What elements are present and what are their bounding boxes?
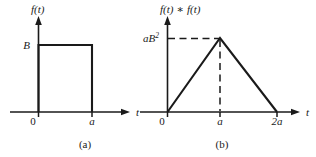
panel-b-caption: (b) <box>216 138 229 151</box>
panel-a-x-axis-arrowhead <box>121 109 130 116</box>
panel-b-x-tick-label-2a: 2a <box>272 115 284 127</box>
panel-b-y-axis-label-left: f(t) <box>160 3 174 16</box>
panel-b-y-axis-label-operator: ∗ <box>176 3 183 15</box>
panel-b-x-axis-label: t <box>306 106 310 118</box>
panel-b-y-axis-label: f(t)∗f(t) <box>160 3 201 16</box>
panel-b: f(t)∗f(t) aB2 0 a 2a t (b) <box>140 3 310 151</box>
panel-a-x-axis-label: t <box>136 106 140 118</box>
panel-b-x-axis-arrowhead <box>291 109 300 116</box>
panel-a-pulse-curve <box>39 45 93 112</box>
panel-a: f(t) B 0 a t (a) <box>10 3 140 151</box>
panel-b-x-tick-label-a: a <box>217 115 223 127</box>
panel-a-y-tick-label-B: B <box>23 39 30 51</box>
figure-container: f(t) B 0 a t (a) <box>0 0 316 157</box>
panel-a-y-axis-arrowhead <box>35 16 42 25</box>
panel-b-y-tick-label-exponent: 2 <box>155 31 159 40</box>
panel-b-y-axis-label-right: f(t) <box>187 3 201 16</box>
panel-b-origin-label: 0 <box>159 115 165 127</box>
panel-b-y-axis-arrowhead <box>164 16 171 25</box>
panel-a-y-axis-label: f(t) <box>31 3 45 16</box>
panel-a-origin-label: 0 <box>30 115 36 127</box>
panel-a-caption: (a) <box>79 138 92 151</box>
panel-b-triangle-curve <box>168 38 278 112</box>
figure-svg: f(t) B 0 a t (a) <box>0 0 316 157</box>
panel-a-x-tick-label-a: a <box>89 115 95 127</box>
panel-b-y-tick-label-aB2: aB2 <box>143 31 159 44</box>
panel-b-y-tick-label-base: aB <box>143 32 156 44</box>
